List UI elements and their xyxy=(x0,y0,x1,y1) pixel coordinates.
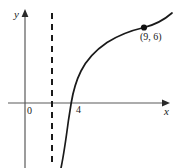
marked-point-label: (9, 6) xyxy=(140,32,162,42)
x-axis xyxy=(8,100,170,107)
graph-figure: y x 0 4 (9, 6) xyxy=(0,0,180,168)
y-axis-label: y xyxy=(14,9,19,20)
plot-canvas xyxy=(0,0,180,168)
origin-tick-label: 0 xyxy=(27,106,32,116)
x-tick-label-4: 4 xyxy=(76,105,81,115)
marked-point-dot xyxy=(141,24,147,30)
x-axis-label: x xyxy=(164,106,169,117)
y-axis xyxy=(22,9,29,168)
y-axis-arrowhead xyxy=(22,9,29,17)
